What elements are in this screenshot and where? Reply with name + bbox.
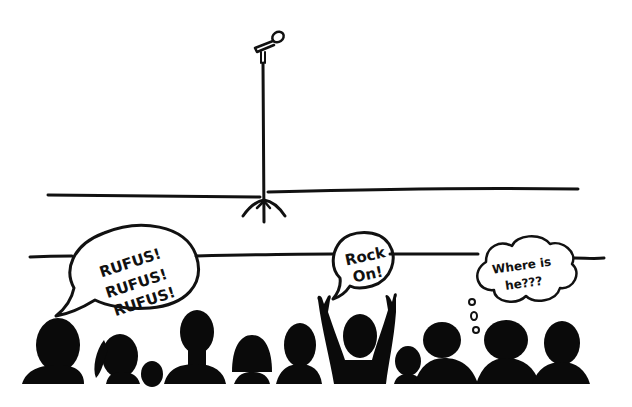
svg-text:Where is: Where is xyxy=(491,255,552,277)
svg-text:he???: he??? xyxy=(504,274,543,293)
audience-member xyxy=(141,361,163,387)
audience-member-rocker xyxy=(317,293,396,384)
audience-member xyxy=(532,321,590,384)
audience-member xyxy=(22,318,84,384)
stage-back-edge xyxy=(48,188,578,197)
audience-member xyxy=(94,334,140,384)
audience-member xyxy=(414,322,478,384)
speech-bubble-rufus: RUFUS! RUFUS! RUFUS! xyxy=(56,225,198,320)
thought-bubble-where-is-he: Where is he??? xyxy=(469,236,576,333)
cartoon-scene: RUFUS! RUFUS! RUFUS! Rock On! Where is h… xyxy=(0,0,632,407)
audience-member xyxy=(276,323,322,384)
audience-member xyxy=(476,320,540,384)
speech-bubble-rock-on: Rock On! xyxy=(333,233,393,300)
audience-member xyxy=(232,335,272,384)
bubble-line: he??? xyxy=(504,274,543,293)
audience-member xyxy=(164,310,226,384)
bubble-line: Where is xyxy=(491,255,552,277)
audience-silhouettes xyxy=(22,293,590,387)
